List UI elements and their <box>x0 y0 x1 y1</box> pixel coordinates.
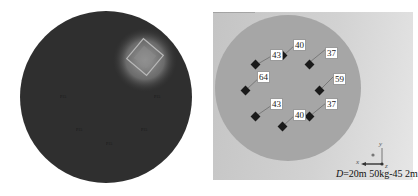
axis-glyph <box>371 153 374 156</box>
x-axis-label: x <box>356 158 359 166</box>
point-label: 40 <box>293 109 306 121</box>
left-spot-label: P15 <box>106 141 112 146</box>
point-label: 43 <box>270 98 283 110</box>
y-axis-label: y <box>379 140 382 148</box>
right-disc-svg <box>213 12 413 180</box>
left-spot-label: P15 <box>76 127 82 132</box>
left-spot-label: P15 <box>141 127 147 132</box>
figure-caption: D=20m 50kg-45 2m <box>336 168 418 179</box>
point-label: 59 <box>333 73 346 85</box>
point-label: 37 <box>325 47 338 59</box>
caption-text: =20m 50kg-45 2m <box>343 168 418 179</box>
left-rendered-disc-panel: P15 P15 P15 P15 P15 <box>0 0 210 196</box>
point-label: 37 <box>325 98 338 110</box>
right-annotated-disc-panel: 40 43 37 64 59 43 37 40 x y z D=20m 50kg… <box>213 12 413 180</box>
left-spot-label: P15 <box>60 94 66 99</box>
right-disc <box>215 15 361 161</box>
left-disc-svg <box>0 0 210 196</box>
point-label: 43 <box>270 49 283 61</box>
x-arrowhead <box>361 162 366 166</box>
z-axis-origin <box>380 162 383 165</box>
left-spot-label: P15 <box>154 94 160 99</box>
point-label: 64 <box>257 71 270 83</box>
point-label: 40 <box>293 39 306 51</box>
